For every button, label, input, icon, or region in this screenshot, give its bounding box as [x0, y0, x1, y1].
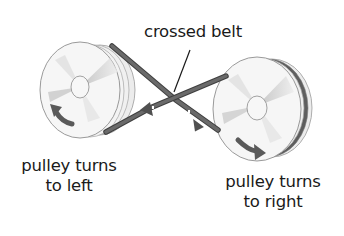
belt-label-text: crossed belt [144, 22, 242, 41]
right-pulley-hub [247, 96, 267, 120]
right-pulley-label-line1: pulley turns [208, 172, 338, 192]
left-pulley-label-line1: pulley turns [4, 156, 134, 176]
left-pulley-hub [71, 76, 89, 98]
right-pulley-label: pulley turns to right [208, 172, 338, 212]
belt-label-leader-line [174, 50, 190, 92]
right-pulley-label-line2: to right [208, 192, 338, 212]
right-pulley [213, 57, 312, 161]
left-pulley-label-line2: to left [4, 176, 134, 196]
left-pulley-label: pulley turns to left [4, 156, 134, 196]
belt-label: crossed belt [128, 22, 258, 42]
crossed-belt-diagram: crossed belt pulley turns to left pulley… [0, 0, 344, 236]
